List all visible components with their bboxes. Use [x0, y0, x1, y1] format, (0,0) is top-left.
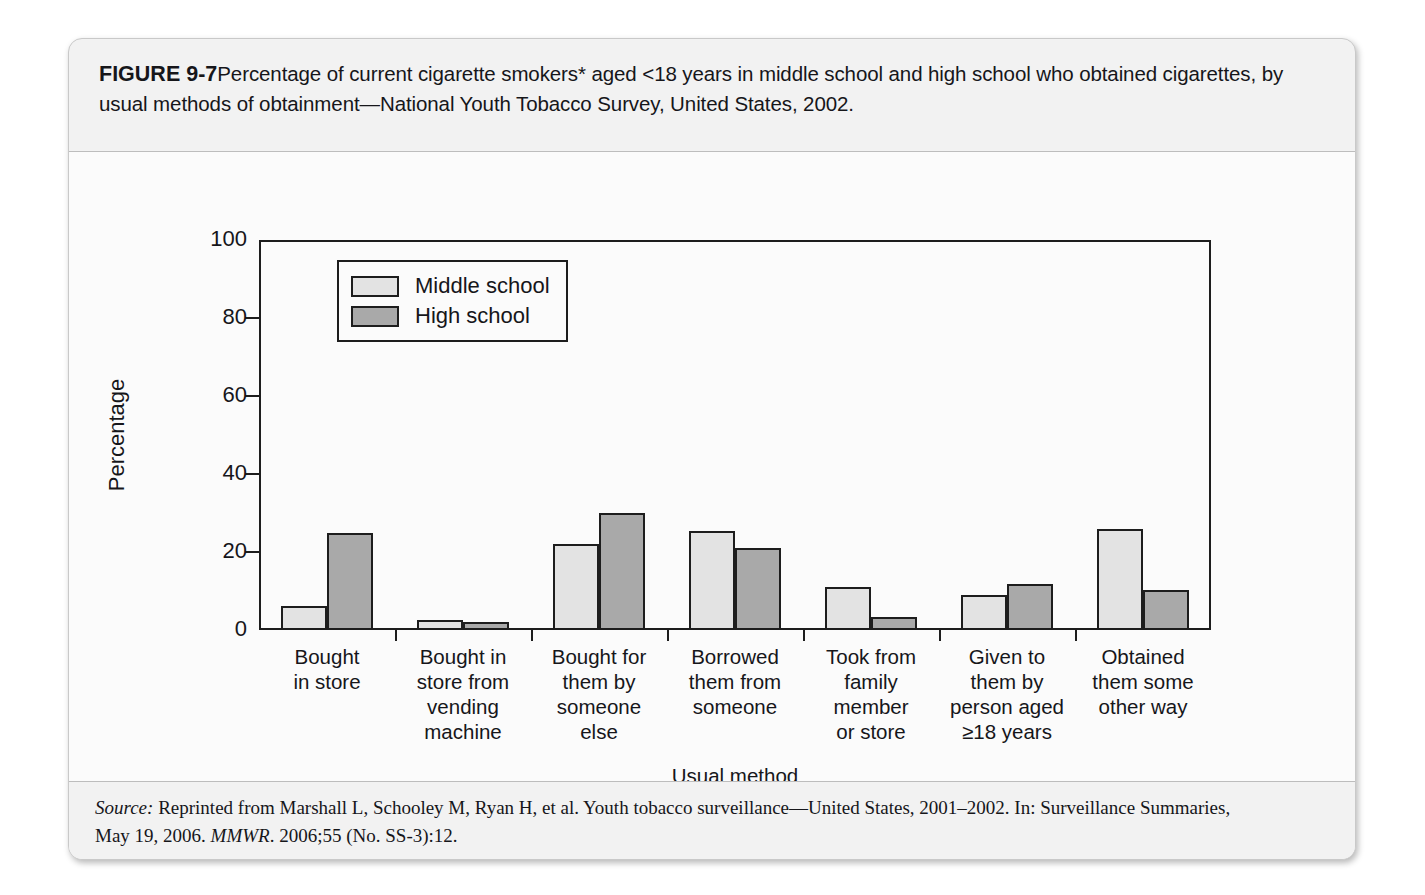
bar-hs-4	[871, 617, 917, 630]
source-journal: MMWR	[211, 825, 270, 846]
y-axis-tick-80	[245, 317, 259, 319]
x-axis-tick-5	[939, 630, 941, 641]
chart-legend: Middle school High school	[337, 260, 568, 342]
legend-item-high-school: High school	[351, 301, 550, 331]
source-block: Source: Reprinted from Marshall L, Schoo…	[69, 782, 1355, 860]
figure-page: FIGURE 9-7Percentage of current cigarett…	[0, 0, 1425, 895]
x-axis-tick-3	[667, 630, 669, 641]
category-label-5-line-0: Given to	[931, 644, 1083, 669]
y-axis-label-0: 0	[235, 618, 247, 640]
category-label-5-line-3: ≥18 years	[931, 719, 1083, 744]
category-label-1-line-0: Bought in	[387, 644, 539, 669]
bar-hs-0	[327, 533, 373, 630]
legend-swatch-middle-school	[351, 276, 399, 297]
category-label-4: Took fromfamilymemberor store	[795, 644, 947, 744]
category-label-3-line-0: Borrowed	[659, 644, 811, 669]
category-label-4-line-0: Took from	[795, 644, 947, 669]
category-label-6-line-0: Obtained	[1067, 644, 1219, 669]
source-line-2-post: . 2006;55 (No. SS-3):12.	[270, 825, 458, 846]
bar-hs-1	[463, 622, 509, 630]
bar-hs-3	[735, 548, 781, 630]
y-axis-label-60: 60	[223, 384, 247, 406]
bar-ms-6	[1097, 529, 1143, 630]
figure-number: FIGURE 9-7	[99, 62, 217, 86]
y-axis-label-100: 100	[210, 228, 247, 250]
bar-hs-6	[1143, 590, 1189, 630]
y-axis-title: Percentage	[104, 325, 130, 545]
legend-label-high-school: High school	[415, 305, 530, 327]
bar-ms-3	[689, 531, 735, 630]
x-axis-tick-2	[531, 630, 533, 641]
legend-item-middle-school: Middle school	[351, 271, 550, 301]
legend-swatch-high-school	[351, 306, 399, 327]
category-label-4-line-3: or store	[795, 719, 947, 744]
x-axis-tick-6	[1075, 630, 1077, 641]
y-axis-label-20: 20	[223, 540, 247, 562]
source-text: Source: Reprinted from Marshall L, Schoo…	[95, 794, 1335, 850]
figure-card: FIGURE 9-7Percentage of current cigarett…	[68, 38, 1356, 860]
bar-ms-0	[281, 606, 327, 630]
category-label-6-line-1: them some	[1067, 669, 1219, 694]
bar-hs-2	[599, 513, 645, 630]
source-line-1: Reprinted from Marshall L, Schooley M, R…	[153, 797, 1230, 818]
y-axis-tick-60	[245, 395, 259, 397]
category-label-2-line-1: them by	[523, 669, 675, 694]
category-label-4-line-2: member	[795, 694, 947, 719]
category-label-5-line-1: them by	[931, 669, 1083, 694]
x-axis-tick-4	[803, 630, 805, 641]
category-label-2: Bought forthem bysomeoneelse	[523, 644, 675, 744]
source-label: Source:	[95, 797, 153, 818]
y-axis-label-80: 80	[223, 306, 247, 328]
legend-label-middle-school: Middle school	[415, 275, 550, 297]
category-label-4-line-1: family	[795, 669, 947, 694]
bar-chart: Percentage 020406080100 Boughtin storeBo…	[69, 152, 1355, 781]
category-label-5-line-2: person aged	[931, 694, 1083, 719]
category-label-5: Given tothem byperson aged≥18 years	[931, 644, 1083, 744]
y-axis-tick-40	[245, 473, 259, 475]
category-label-0: Boughtin store	[251, 644, 403, 694]
x-axis-tick-1	[395, 630, 397, 641]
category-label-3-line-1: them from	[659, 669, 811, 694]
y-axis-label-40: 40	[223, 462, 247, 484]
bar-ms-5	[961, 595, 1007, 630]
category-label-2-line-3: else	[523, 719, 675, 744]
category-label-2-line-2: someone	[523, 694, 675, 719]
plot-panel: Percentage 020406080100 Boughtin storeBo…	[69, 152, 1355, 781]
source-line-2-pre: May 19, 2006.	[95, 825, 211, 846]
y-axis-tick-20	[245, 551, 259, 553]
category-label-3-line-2: someone	[659, 694, 811, 719]
category-label-1-line-2: vending	[387, 694, 539, 719]
category-label-1: Bought instore fromvendingmachine	[387, 644, 539, 744]
bar-ms-1	[417, 620, 463, 630]
category-label-6-line-2: other way	[1067, 694, 1219, 719]
category-label-0-line-0: Bought	[251, 644, 403, 669]
category-label-6: Obtainedthem someother way	[1067, 644, 1219, 719]
category-label-1-line-1: store from	[387, 669, 539, 694]
figure-caption-text: Percentage of current cigarette smokers*…	[99, 62, 1283, 115]
figure-caption: FIGURE 9-7Percentage of current cigarett…	[99, 59, 1319, 119]
category-label-2-line-0: Bought for	[523, 644, 675, 669]
category-label-0-line-1: in store	[251, 669, 403, 694]
category-label-3: Borrowedthem fromsomeone	[659, 644, 811, 719]
bar-hs-5	[1007, 584, 1053, 630]
bar-ms-4	[825, 587, 871, 630]
bar-ms-2	[553, 544, 599, 630]
category-label-1-line-3: machine	[387, 719, 539, 744]
